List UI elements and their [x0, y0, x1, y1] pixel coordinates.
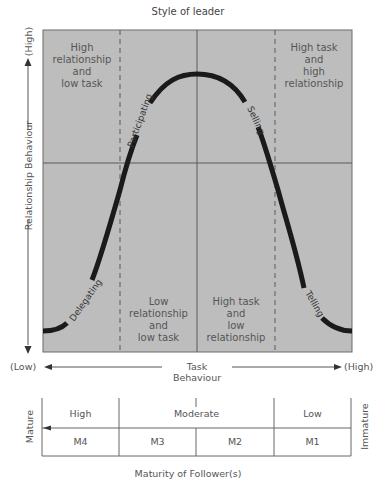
y-axis-arrow-down: [25, 346, 32, 354]
x-axis-label: Task Behaviour: [162, 361, 232, 383]
quadrant-bottom-right-text: High task and low relationship: [197, 296, 275, 344]
quadrant-top-left-text: High relationship and low task: [45, 42, 119, 90]
maturity-stage-m4: M4: [42, 436, 119, 447]
maturity-level-moderate: Moderate: [119, 408, 274, 419]
maturity-stage-m2: M2: [196, 436, 274, 447]
maturity-arrow-left: [43, 426, 51, 431]
x-axis-low-label: (Low): [10, 361, 36, 372]
maturity-level-high: High: [42, 408, 119, 419]
immature-label: Immature: [359, 397, 370, 457]
x-axis-high-label: (High): [344, 361, 373, 372]
x-axis-arrow-right: [334, 364, 342, 370]
quadrant-bottom-left-text: Low relationship and low task: [120, 296, 197, 344]
y-axis-high-label: (High): [23, 20, 34, 64]
y-axis-label: Relationship Behaviour: [23, 116, 34, 236]
maturity-stage-m3: M3: [119, 436, 196, 447]
x-axis-arrow-left: [44, 364, 52, 370]
mature-label: Mature: [24, 402, 35, 452]
maturity-footer-label: Maturity of Follower(s): [0, 468, 376, 479]
maturity-level-low: Low: [274, 408, 351, 419]
quadrant-top-right-text: High task and high relationship: [276, 42, 352, 90]
maturity-stage-m1: M1: [274, 436, 351, 447]
